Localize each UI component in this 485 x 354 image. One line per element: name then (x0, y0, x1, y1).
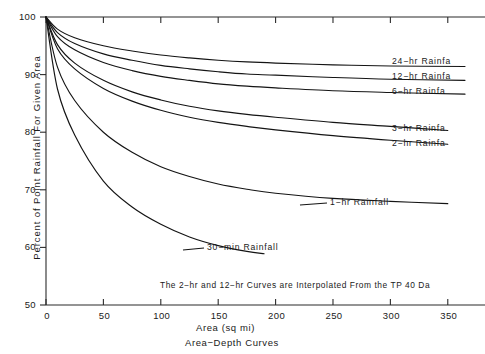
y-tick-label: 70 (8, 184, 36, 195)
x-tick-label: 150 (209, 310, 229, 321)
chart-figure: Percent of Point Rainfall For Given Area… (0, 0, 485, 354)
series-label-0: 24−hr Rainfa (392, 56, 451, 66)
series-label-6: 30−min Rainfall (207, 242, 278, 252)
curves-group (46, 17, 465, 254)
series-label-4: 2−hr Rainfa (392, 138, 445, 148)
x-tick-label: 100 (152, 310, 172, 321)
series-label-5: 1−hr Rainfall (330, 197, 389, 207)
x-tick-label: 350 (439, 310, 459, 321)
x-tick-label: 50 (94, 310, 114, 321)
x-tick-label: 250 (324, 310, 344, 321)
chart-subtitle: Area−Depth Curves (185, 337, 279, 348)
series-label-1: 12−hr Rainfa (392, 71, 451, 81)
chart-annotation: The 2−hr and 12−hr Curves are Interpolat… (160, 280, 430, 290)
x-tick-label: 200 (267, 310, 287, 321)
y-tick-label: 100 (8, 11, 36, 22)
y-tick-label: 90 (8, 69, 36, 80)
x-tick-label: 300 (381, 310, 401, 321)
x-tick-label: 0 (37, 310, 57, 321)
x-axis-title: Area (sq mi) (196, 322, 255, 333)
curve-5 (46, 17, 448, 204)
series-label-3: 3−hr Rainfa (392, 123, 445, 133)
series-label-2: 6−hr Rainfa (392, 86, 445, 96)
y-tick-label: 60 (8, 241, 36, 252)
curve-4 (46, 17, 448, 144)
y-tick-label: 80 (8, 126, 36, 137)
y-tick-label: 50 (8, 299, 36, 310)
plot-canvas (0, 0, 485, 354)
